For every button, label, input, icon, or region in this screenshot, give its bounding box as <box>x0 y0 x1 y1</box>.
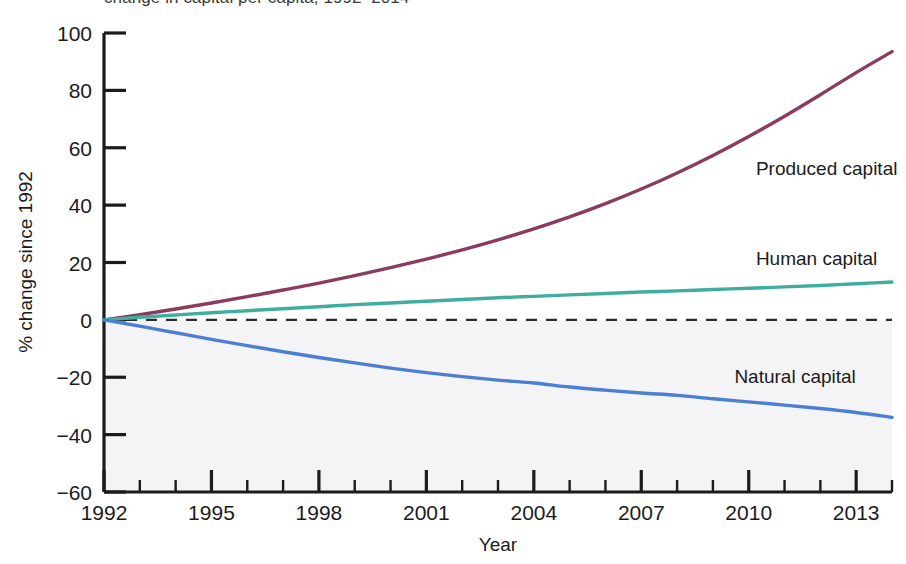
y-tick-label: 20 <box>69 252 92 275</box>
y-tick-label: 60 <box>69 137 92 160</box>
plot-background-band <box>104 320 892 492</box>
x-tick-label: 2001 <box>403 501 450 524</box>
y-tick-label: 0 <box>80 309 92 332</box>
x-tick-label: 2007 <box>618 501 665 524</box>
x-tick-label: 2010 <box>725 501 772 524</box>
clipped-figure-title: change in capital per capita, 1992–2014 <box>104 0 409 8</box>
x-tick-label: 2004 <box>510 501 557 524</box>
x-tick-label: 1998 <box>296 501 343 524</box>
y-tick-label: 80 <box>69 79 92 102</box>
series-label-produced-capital: Produced capital <box>756 158 898 179</box>
x-tick-label: 1992 <box>81 501 128 524</box>
y-tick-label: −40 <box>56 424 92 447</box>
series-label-natural-capital: Natural capital <box>734 366 855 387</box>
y-tick-label: −20 <box>56 366 92 389</box>
y-tick-label: 40 <box>69 194 92 217</box>
line-chart-canvas: −60−40−20020406080100 199219951998200120… <box>0 0 906 564</box>
y-tick-label: 100 <box>57 22 92 45</box>
chart-figure: change in capital per capita, 1992–2014 … <box>0 0 906 564</box>
x-axis-title: Year <box>479 534 518 555</box>
series-label-human-capital: Human capital <box>756 248 877 269</box>
series-line-produced-capital <box>104 52 892 320</box>
x-tick-label: 2013 <box>833 501 880 524</box>
x-tick-label: 1995 <box>188 501 235 524</box>
y-axis-title: % change since 1992 <box>15 171 36 353</box>
